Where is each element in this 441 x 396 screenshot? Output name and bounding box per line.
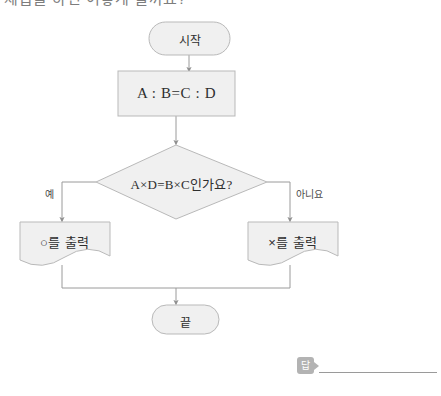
node-process[interactable] (118, 71, 235, 116)
node-end[interactable] (152, 305, 219, 334)
connector-decision-no-to-output (267, 182, 290, 220)
flowchart-canvas (0, 0, 441, 396)
node-decision[interactable] (96, 145, 267, 219)
node-start[interactable] (149, 22, 230, 55)
answer-row: 답 (297, 357, 437, 381)
node-output-no[interactable] (248, 222, 338, 265)
answer-badge: 답 (297, 357, 314, 374)
worksheet-page: 제곱을 하면 어떻게 될까요? (0, 0, 441, 396)
node-output-yes[interactable] (20, 222, 110, 265)
answer-blank-line[interactable] (319, 372, 437, 373)
connector-outputs-merge-to-end (62, 265, 290, 303)
connector-decision-yes-to-output (62, 182, 96, 220)
